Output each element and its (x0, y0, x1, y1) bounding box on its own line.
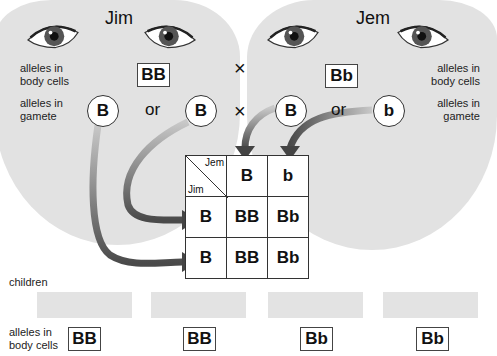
punnett-col-header-1: B (227, 156, 268, 197)
jim-left-eye-icon (28, 26, 78, 47)
jim-genotype: BB (137, 63, 170, 87)
child-1-eyes-panel (37, 292, 132, 318)
jem-gamete-2: b (373, 95, 405, 127)
child-2-genotype: BB (183, 327, 216, 351)
punnett-col-header-2: b (268, 156, 309, 197)
jem-right-eye-icon (398, 26, 448, 47)
child-4-eyes-panel (383, 292, 478, 318)
child-4-genotype: Bb (416, 327, 449, 351)
jim-gamete-2: B (185, 95, 217, 127)
punnett-square: Jem Jim B b B BB Bb B BB Bb (185, 155, 309, 279)
children-body-cells-label: alleles in body cells (9, 326, 58, 352)
jim-name: Jim (105, 8, 133, 29)
cross-symbol-gamete: × (234, 100, 246, 123)
child-1-genotype: BB (68, 327, 101, 351)
jim-body-cells-label: alleles in body cells (20, 62, 69, 88)
punnett-cell: Bb (268, 197, 309, 238)
cross-symbol-body: × (234, 57, 246, 80)
child-3-genotype: Bb (300, 327, 333, 351)
child-2-eyes-panel (151, 292, 246, 318)
punnett-cell: Bb (268, 238, 309, 279)
punnett-cell: BB (227, 238, 268, 279)
jim-or-label: or (145, 100, 160, 120)
punnett-corner-jem: Jem (205, 157, 224, 168)
punnett-row-header-2: B (186, 238, 227, 279)
jim-gamete-1: B (87, 95, 119, 127)
jem-gamete-label: alleles in gamete (420, 97, 480, 123)
jem-genotype: Bb (325, 64, 358, 88)
children-label: children (9, 276, 48, 289)
jem-name: Jem (356, 8, 390, 29)
child-3-eyes-panel (268, 292, 363, 318)
jim-right-eye-icon (145, 26, 195, 47)
jem-body-cells-label: alleles in body cells (420, 62, 480, 88)
punnett-row-header-1: B (186, 197, 227, 238)
jem-left-eye-icon (268, 26, 318, 47)
punnett-corner: Jem Jim (186, 156, 227, 197)
jim-gamete-label: alleles in gamete (20, 97, 63, 123)
jem-gamete-1: B (275, 95, 307, 127)
punnett-cell: BB (227, 197, 268, 238)
jem-or-label: or (331, 100, 346, 120)
punnett-corner-jim: Jim (188, 184, 204, 195)
